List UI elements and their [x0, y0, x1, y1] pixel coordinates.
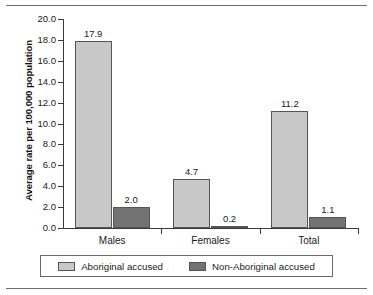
bar [113, 207, 150, 228]
x-axis-category-label: Males [63, 234, 161, 247]
bar [211, 226, 248, 228]
bar-value-label: 17.9 [69, 28, 118, 39]
legend-label: Non-Aboriginal accused [212, 261, 315, 272]
chart-legend: Aboriginal accusedNon-Aboriginal accused [40, 255, 333, 277]
y-tick-label: 10.0 [10, 119, 56, 129]
legend-label: Aboriginal accused [81, 261, 163, 272]
x-axis-category-label: Total [260, 234, 358, 247]
legend-swatch-aboriginal [58, 262, 75, 271]
bar-value-label: 4.7 [167, 166, 216, 177]
category-separator-tick [358, 228, 359, 234]
bar [309, 217, 346, 228]
y-tick-label: 0.0 [10, 223, 56, 233]
y-tick-label: 16.0 [10, 56, 56, 66]
y-tick-label: 8.0 [10, 139, 56, 149]
legend-entry: Non-Aboriginal accused [189, 261, 315, 272]
x-axis-line [63, 228, 359, 229]
y-tick-label: 14.0 [10, 77, 56, 87]
legend-swatch-non-aboriginal [189, 262, 206, 271]
x-axis-category-label: Females [161, 234, 259, 247]
y-tick-label: 18.0 [10, 35, 56, 45]
bar-value-label: 2.0 [107, 194, 156, 205]
chart-figure: Average rate per 100,000 population 0.02… [0, 0, 373, 295]
bar-value-label: 11.2 [265, 98, 314, 109]
y-tick-label: 2.0 [10, 202, 56, 212]
bar-value-label: 0.2 [205, 213, 254, 224]
y-tick-label: 4.0 [10, 181, 56, 191]
bar-value-label: 1.1 [303, 204, 352, 215]
y-tick-label: 12.0 [10, 98, 56, 108]
legend-entry: Aboriginal accused [58, 261, 163, 272]
y-tick-label: 6.0 [10, 160, 56, 170]
y-tick-label: 20.0 [10, 14, 56, 24]
plot-area: 17.92.04.70.211.21.1 [63, 19, 358, 228]
